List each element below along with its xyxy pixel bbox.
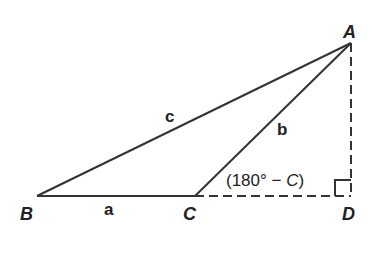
angle-label-suffix: ) <box>298 171 304 190</box>
angle-label-var: C <box>286 171 299 190</box>
side-label-c: c <box>165 107 174 126</box>
side-label-b: b <box>277 120 287 139</box>
point-label-b: B <box>20 204 33 224</box>
angle-label-prefix: (180° − <box>226 171 286 190</box>
point-label-a: A <box>342 22 356 42</box>
point-label-c: C <box>183 204 197 224</box>
point-label-d: D <box>342 204 355 224</box>
right-angle-marker <box>335 180 351 196</box>
angle-label: (180° − C) <box>226 171 304 190</box>
triangle-diagram: A B C D c b a (180° − C) <box>0 0 386 261</box>
side-label-a: a <box>104 200 114 219</box>
